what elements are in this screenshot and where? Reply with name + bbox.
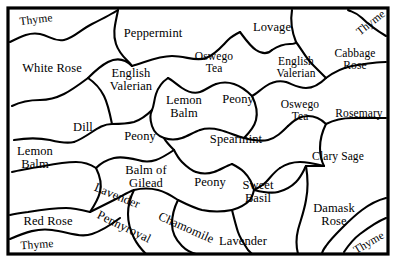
herb-garden-map: ThymePeppermintLovageThymeWhite RoseEngl… [0, 0, 402, 270]
map-boundaries-svg [0, 0, 402, 270]
